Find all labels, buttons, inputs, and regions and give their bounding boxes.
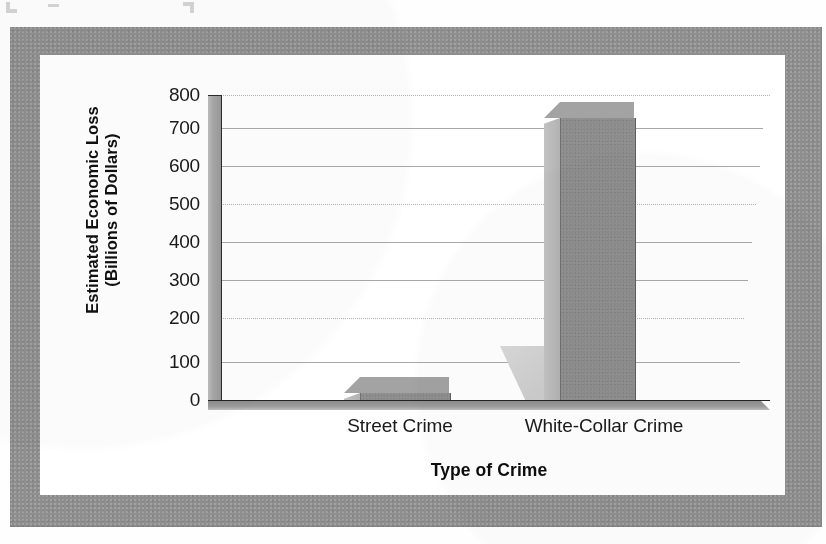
y-axis-wall	[208, 95, 222, 401]
y-axis-title-line1: Estimated Economic Loss	[83, 106, 102, 314]
gridline-700	[221, 128, 763, 129]
gridline-300	[221, 280, 748, 281]
x-axis-tick-labels: Street Crime White-Collar Crime	[208, 415, 770, 445]
y-axis-title-line2: (Billions of Dollars)	[102, 133, 121, 286]
scanned-page: Estimated Economic Loss (Billions of Dol…	[0, 0, 826, 544]
y-tick-label-500: 500	[132, 193, 200, 215]
bar-side-face-white-collar-crime	[544, 118, 560, 406]
figure-panel: Estimated Economic Loss (Billions of Dol…	[40, 55, 785, 495]
crop-mark-top-right	[182, 2, 194, 13]
y-tick-label-100: 100	[132, 351, 200, 373]
bar-top-face-street-crime	[344, 377, 449, 393]
gridline-500	[221, 204, 756, 205]
y-axis-tick-labels: 800 700 600 500 400 300 200 100 0	[132, 55, 200, 495]
bar-street-crime[interactable]	[360, 393, 449, 400]
x-tick-label-street-crime: Street Crime	[347, 415, 452, 437]
plot-floor	[208, 400, 770, 410]
y-tick-label-200: 200	[132, 307, 200, 329]
plot-area	[208, 95, 770, 400]
y-axis-title: Estimated Economic Loss (Billions of Dol…	[82, 60, 122, 360]
bar-top-face-white-collar-crime	[544, 102, 634, 118]
y-tick-label-800: 800	[132, 84, 200, 106]
gridline-200	[221, 318, 744, 319]
crop-mark-top-left	[6, 2, 18, 13]
gridline-600	[221, 166, 760, 167]
bar-chart: Estimated Economic Loss (Billions of Dol…	[40, 55, 785, 495]
gridline-800	[221, 95, 770, 96]
figure-frame-border: Estimated Economic Loss (Billions of Dol…	[10, 27, 822, 527]
y-tick-label-400: 400	[132, 231, 200, 253]
bar-front-face-street-crime	[360, 393, 451, 400]
x-tick-label-white-collar-crime: White-Collar Crime	[525, 415, 684, 437]
gridline-400	[221, 242, 752, 243]
y-tick-label-700: 700	[132, 117, 200, 139]
gridline-100	[221, 362, 740, 363]
crop-mark-top-center	[48, 4, 60, 15]
x-axis-title: Type of Crime	[208, 460, 770, 481]
y-tick-label-0: 0	[132, 389, 200, 411]
y-tick-label-600: 600	[132, 155, 200, 177]
y-tick-label-300: 300	[132, 269, 200, 291]
bar-front-face-white-collar-crime	[560, 118, 636, 400]
bar-white-collar-crime[interactable]	[560, 118, 634, 400]
